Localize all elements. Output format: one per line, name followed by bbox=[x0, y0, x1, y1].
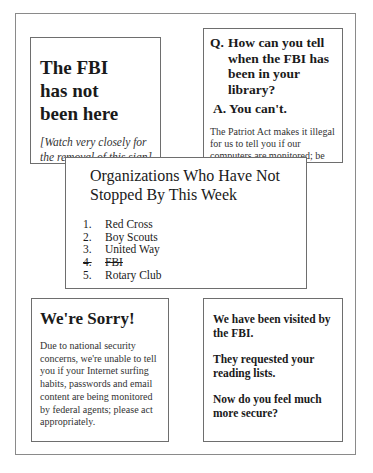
visited-paragraph: We have been visited by the FBI. bbox=[213, 313, 336, 340]
visited-paragraph: Now do you feel much more secure? bbox=[213, 393, 336, 420]
item-number: 1. bbox=[83, 218, 105, 231]
title-line: has not bbox=[40, 80, 99, 101]
title-line: The FBI bbox=[40, 57, 108, 78]
question-text: How can you tell when the FBI has been i… bbox=[228, 35, 336, 97]
visited-sign: We have been visited by the FBI. They re… bbox=[203, 298, 343, 442]
item-label: Rotary Club bbox=[105, 269, 162, 282]
organizations-list-sign: Organizations Who Have Not Stopped By Th… bbox=[65, 157, 307, 289]
item-number: 2. bbox=[83, 231, 105, 244]
organizations-list: 1.Red Cross 2.Boy Scouts 3.United Way 4.… bbox=[83, 218, 296, 282]
qa-sign: Q. How can you tell when the FBI has bee… bbox=[203, 28, 343, 163]
question: Q. How can you tell when the FBI has bee… bbox=[210, 35, 336, 97]
item-label: United Way bbox=[105, 243, 160, 256]
list-item: 2.Boy Scouts bbox=[83, 231, 296, 244]
item-label: Red Cross bbox=[105, 218, 153, 231]
sorry-body: Due to national security concerns, we're… bbox=[40, 340, 162, 429]
sign-title: The FBI has not been here bbox=[40, 56, 152, 125]
sorry-sign: We're Sorry! Due to national security co… bbox=[31, 298, 169, 442]
list-item: 1.Red Cross bbox=[83, 218, 296, 231]
list-item-struck: 4.FBI bbox=[83, 256, 296, 269]
item-number: 5. bbox=[83, 269, 105, 282]
item-number: 3. bbox=[83, 243, 105, 256]
item-label: FBI bbox=[105, 256, 123, 269]
visited-paragraph: They requested your reading lists. bbox=[213, 353, 336, 380]
sorry-title: We're Sorry! bbox=[40, 309, 162, 329]
list-item: 3.United Way bbox=[83, 243, 296, 256]
question-prefix: Q. bbox=[210, 35, 228, 97]
item-label: Boy Scouts bbox=[105, 231, 158, 244]
list-title: Organizations Who Have Not Stopped By Th… bbox=[83, 166, 296, 204]
list-item: 5.Rotary Club bbox=[83, 269, 296, 282]
title-line: been here bbox=[40, 103, 118, 124]
item-number: 4. bbox=[83, 256, 105, 269]
answer: A. You can't. bbox=[213, 101, 336, 117]
fbi-not-here-sign: The FBI has not been here [Watch very cl… bbox=[30, 37, 161, 164]
